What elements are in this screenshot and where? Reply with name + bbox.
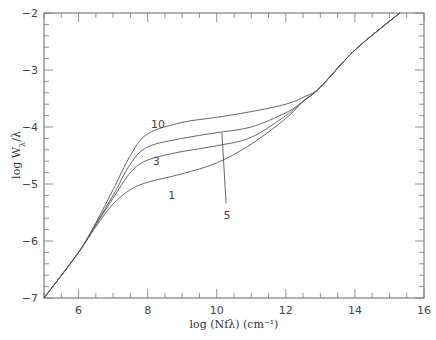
y-tick-label: −6 (22, 235, 38, 248)
curve-series-10 (44, 13, 400, 298)
chart: 6810121416−7−6−5−4−3−2 10315 log (Nfλ) (… (0, 0, 436, 340)
y-tick-label: −3 (22, 64, 38, 77)
x-tick-label: 12 (279, 304, 293, 317)
ticks: 6810121416−7−6−5−4−3−2 (22, 7, 431, 317)
y-tick-label: −2 (22, 7, 38, 20)
x-tick-label: 16 (417, 304, 431, 317)
curve-label-3: 3 (153, 155, 160, 168)
plot-frame (44, 13, 424, 298)
y-axis-label: log Wλ/λ (10, 131, 27, 179)
x-tick-label: 10 (210, 304, 224, 317)
x-tick-label: 8 (144, 304, 151, 317)
axes (44, 13, 424, 298)
annotation-pointer (222, 133, 226, 204)
curve-label-5: 5 (224, 209, 231, 222)
x-axis-label: log (Nfλ) (cm⁻¹) (190, 318, 279, 331)
curve-label-1: 1 (168, 189, 175, 202)
curves (44, 13, 400, 298)
curve-series-1 (44, 13, 400, 298)
annotations: 10315 (151, 118, 231, 222)
curve-series-5 (44, 13, 400, 298)
x-tick-label: 14 (348, 304, 362, 317)
curve-series-3 (44, 13, 400, 298)
y-tick-label: −4 (22, 121, 38, 134)
y-tick-label: −5 (22, 178, 38, 191)
x-tick-label: 6 (75, 304, 82, 317)
y-tick-label: −7 (22, 292, 38, 305)
curve-label-10: 10 (151, 118, 165, 131)
